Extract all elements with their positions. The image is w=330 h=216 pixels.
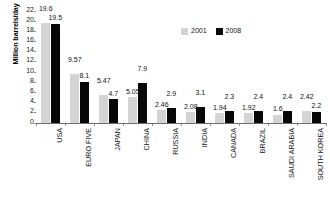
bar-2001-4[interactable]	[157, 110, 166, 123]
bar-2008-3[interactable]	[138, 83, 147, 123]
legend: 20012008	[181, 27, 241, 35]
bar-2008-9[interactable]	[312, 112, 321, 123]
x-axis-label-saudi-arabia: SAUDI ARABIA	[287, 128, 296, 178]
legend-item-2001[interactable]: 2001	[181, 27, 207, 35]
bar-value-label: 5.47	[91, 77, 117, 85]
x-axis-label-russia: RUSSIA	[171, 128, 180, 155]
bar-2008-7[interactable]	[254, 111, 263, 123]
y-tick-label: 18	[20, 26, 34, 34]
y-tick-label: 10	[20, 67, 34, 75]
bar-group: 9.578.1	[65, 11, 94, 123]
x-axis-label-canada: CANADA	[229, 128, 238, 158]
x-axis-label-euro-five: EURO FIVE	[84, 128, 93, 167]
y-tick-label: 0	[20, 118, 34, 126]
y-tick-label: 8	[20, 77, 34, 85]
bar-group: 5.057.9	[123, 11, 152, 123]
bar-group: 1.62.4	[268, 11, 297, 123]
legend-swatch-2008	[216, 28, 223, 35]
y-tick-label: 14	[20, 46, 34, 54]
bar-2001-8[interactable]	[273, 115, 282, 123]
bar-2001-9[interactable]	[302, 111, 311, 123]
bar-value-label: 2.42	[294, 93, 320, 101]
x-axis-line	[36, 123, 326, 124]
bar-value-label: 9.57	[62, 56, 88, 64]
bar-2001-1[interactable]	[70, 74, 79, 123]
bar-2001-3[interactable]	[128, 97, 137, 123]
bar-2001-0[interactable]	[41, 23, 50, 123]
y-tick-label: 4	[20, 97, 34, 105]
bar-2001-6[interactable]	[215, 113, 224, 123]
y-tick-label: 20	[20, 16, 34, 24]
bar-2008-5[interactable]	[196, 107, 205, 123]
bar-2001-7[interactable]	[244, 113, 253, 123]
x-axis-label-brazil: BRAZIL	[258, 128, 267, 153]
x-axis-label-india: INDIA	[200, 128, 209, 147]
y-tick-label: 2	[20, 107, 34, 115]
y-tick-label: 6	[20, 87, 34, 95]
bar-chart: Million barrels/day 2220181614121086420 …	[0, 0, 330, 216]
x-axis-label-japan: JAPAN	[113, 128, 122, 151]
bar-group: 2.422.2	[297, 11, 326, 123]
bar-group: 5.474.7	[94, 11, 123, 123]
bar-2008-0[interactable]	[51, 24, 60, 123]
x-axis-category-labels: USAEURO FIVEJAPANCHINARUSSIAINDIACANADAB…	[36, 128, 326, 214]
legend-item-2008[interactable]: 2008	[216, 27, 242, 35]
bar-group: 1.922.4	[239, 11, 268, 123]
legend-label: 2001	[191, 27, 207, 35]
bar-value-label: 2.2	[303, 102, 329, 110]
y-tick-label: 16	[20, 36, 34, 44]
bar-2008-8[interactable]	[283, 111, 292, 123]
y-tick-label: 12	[20, 56, 34, 64]
bar-2008-1[interactable]	[80, 82, 89, 123]
bar-2008-4[interactable]	[167, 108, 176, 123]
bar-2001-5[interactable]	[186, 112, 195, 123]
legend-swatch-2001	[181, 28, 188, 35]
bar-2008-6[interactable]	[225, 111, 234, 123]
x-axis-label-china: CHINA	[142, 128, 151, 150]
bar-value-label: 19.6	[33, 5, 59, 13]
bar-group: 19.619.5	[36, 11, 65, 123]
bar-2008-2[interactable]	[109, 99, 118, 123]
x-axis-label-usa: USA	[55, 128, 64, 143]
legend-label: 2008	[226, 27, 242, 35]
bar-2001-2[interactable]	[99, 95, 108, 123]
x-axis-label-south-korea: SOUTH KOREA	[316, 128, 325, 180]
x-tick-mark	[326, 123, 327, 126]
bar-group: 2.462.9	[152, 11, 181, 123]
